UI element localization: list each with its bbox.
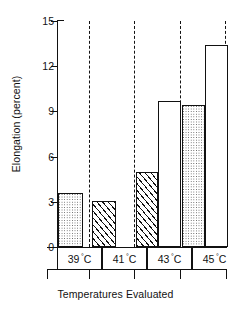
y-tick-mark-9 — [51, 111, 57, 112]
category-cell-39c: 39 ° C — [57, 248, 102, 270]
bracket-leg-2 — [134, 270, 135, 279]
bracket-leg-3 — [180, 270, 181, 279]
category-39c-number: 39 — [68, 254, 80, 265]
category-41c-unit: C — [129, 254, 137, 265]
category-43c-number: 43 — [158, 254, 170, 265]
y-axis-title: Elongation (percent) — [10, 54, 22, 194]
category-cell-43c: 43 ° C — [147, 248, 192, 270]
category-cell-41c: 41 ° C — [102, 248, 147, 270]
y-axis-top-cap — [57, 20, 64, 21]
category-45c-number: 45 — [203, 254, 215, 265]
bar-43c-blank — [158, 101, 181, 247]
bracket-leg-left — [47, 270, 48, 279]
y-tick-mark-6 — [51, 157, 57, 158]
category-39c-unit: C — [84, 254, 92, 265]
category-41c-number: 41 — [113, 254, 125, 265]
bar-43c-hatch — [136, 172, 158, 247]
bracket-leg-1 — [89, 270, 90, 279]
category-cell-45c: 45 ° C — [192, 248, 231, 270]
y-tick-mark-15 — [51, 21, 58, 22]
category-43c-unit: C — [174, 254, 182, 265]
y-tick-mark-3 — [51, 202, 57, 203]
bar-39c-stipple — [58, 193, 83, 247]
category-row-baseline — [47, 269, 227, 270]
group-separator-2 — [134, 21, 135, 247]
group-separator-1 — [89, 21, 90, 247]
bar-45c-blank — [205, 45, 228, 247]
elongation-bar-chart: Elongation (percent) 15 12 9 6 3 0 39 ° … — [0, 0, 231, 312]
x-axis-title: Temperatures Evaluated — [0, 288, 231, 300]
bracket-leg-right — [226, 270, 227, 279]
y-tick-mark-12 — [51, 66, 57, 67]
category-45c-unit: C — [219, 254, 227, 265]
bar-41c-hatch — [92, 201, 116, 247]
bar-45c-stipple — [182, 105, 205, 247]
